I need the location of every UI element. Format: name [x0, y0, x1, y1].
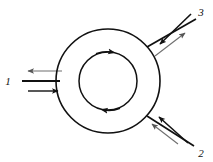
port-2-group: 2: [147, 116, 204, 159]
annular-flow-diagram: 1 3 2: [0, 0, 213, 162]
diagram-canvas: 1 3 2: [0, 0, 213, 162]
port-1-label: 1: [5, 75, 11, 87]
outer-circle: [56, 29, 160, 133]
port-3-inflow-arrow: [160, 14, 191, 44]
inner-circle-group: [79, 52, 137, 111]
inner-circle-arc-left: [79, 52, 108, 110]
port-3-group: 3: [147, 6, 204, 56]
port-1-group: 1: [5, 71, 62, 91]
port-3-outflow-arrow: [155, 33, 185, 56]
inner-circle-arc-right: [108, 52, 137, 110]
port-2-axis-line: [147, 116, 194, 146]
port-2-label: 2: [198, 147, 204, 159]
port-3-label: 3: [197, 6, 204, 18]
